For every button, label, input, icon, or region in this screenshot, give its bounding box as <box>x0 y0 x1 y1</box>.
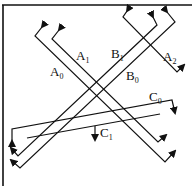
label-a2: A2 <box>163 49 176 66</box>
label-c0: C0 <box>149 89 162 106</box>
diagram-canvas: A0 A1 A2 B0 B1 C0 C1 <box>0 0 192 186</box>
line-b1 <box>11 17 157 156</box>
label-a1: A1 <box>76 48 89 65</box>
label-c1: C1 <box>100 125 113 142</box>
label-b1: B1 <box>111 46 124 63</box>
label-a0: A0 <box>50 64 63 81</box>
label-b0: B0 <box>126 68 139 85</box>
line-c1 <box>27 114 160 138</box>
